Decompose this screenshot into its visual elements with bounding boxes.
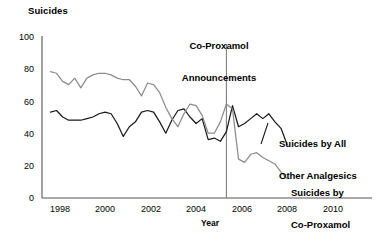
- annotation-line-1: Co-Proxamol: [154, 41, 284, 52]
- y-tick-60: 60: [8, 97, 34, 107]
- leader-line-other-analgesics: [261, 123, 268, 144]
- y-tick-100: 100: [8, 32, 34, 42]
- chart-container: Suicides 100 80 60 40 20 0 1998 2000 200…: [0, 0, 376, 247]
- x-tick-2000: 2000: [85, 204, 125, 214]
- x-tick-2002: 2002: [131, 204, 171, 214]
- y-tick-20: 20: [8, 161, 34, 171]
- y-tick-40: 40: [8, 129, 34, 139]
- series-label-co-proxamol: Suicides by Co-Proxamol: [291, 167, 350, 247]
- series-label-other-line-1: Suicides by All: [279, 139, 357, 150]
- y-tick-0: 0: [8, 193, 34, 203]
- x-tick-2004: 2004: [176, 204, 216, 214]
- series-line-other-analgesics: [50, 106, 287, 145]
- y-axis-title: Suicides: [28, 6, 68, 17]
- leader-lines-group: [261, 123, 268, 144]
- annotation-line-2: Announcements: [154, 73, 284, 84]
- series-label-copro-line-2: Co-Proxamol: [291, 220, 350, 231]
- y-tick-80: 80: [8, 64, 34, 74]
- x-tick-2006: 2006: [222, 204, 262, 214]
- x-axis-title: Year: [190, 219, 230, 229]
- series-label-copro-line-1: Suicides by: [291, 188, 350, 199]
- co-proxamol-announcement-annotation: Co-Proxamol Announcements: [154, 20, 284, 105]
- x-tick-1998: 1998: [40, 204, 80, 214]
